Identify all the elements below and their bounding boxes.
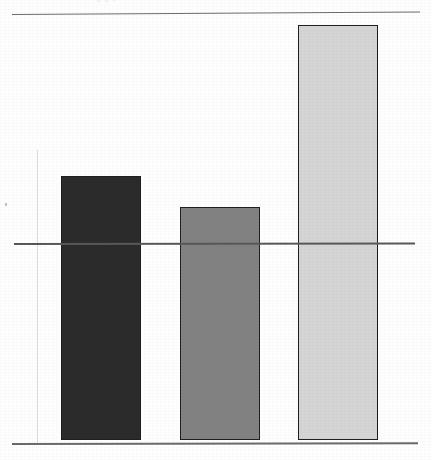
top-gridline: [12, 12, 420, 16]
baseline-gridline: [12, 442, 418, 444]
scan-speck-artifact: [5, 203, 7, 206]
bar-chart-figure: g g (: [0, 0, 432, 460]
plot-area: [0, 0, 432, 460]
left-axis-line: [37, 150, 38, 443]
bar-1: [61, 176, 141, 440]
bar-3: [298, 25, 378, 440]
